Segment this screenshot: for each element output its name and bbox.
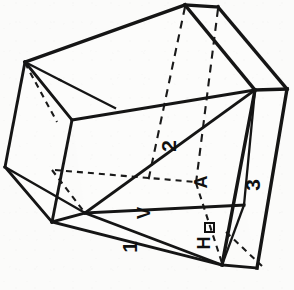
edge-right-face-bottom [222,265,257,268]
technical-drawing-figure: 1 2 3 A V H [0,0,294,290]
solid-geometry-svg: 1 2 3 A V H [0,0,294,290]
direction-label-v: V [134,207,154,219]
section-label-a: A [191,176,211,189]
face-label-3: 3 [241,179,264,191]
face-label-1: 1 [118,241,141,253]
edge-top-apex-short [185,5,218,7]
direction-label-h: H [194,237,214,250]
edge-right-upper-connector [255,89,287,90]
face-label-2: 2 [157,140,180,152]
